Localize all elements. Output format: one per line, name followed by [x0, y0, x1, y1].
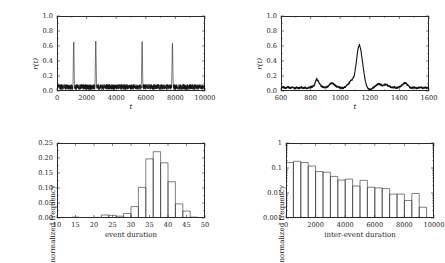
ytick-label: 0.0	[27, 88, 53, 95]
yaxis-title-bottom-left: normalized frequency	[49, 185, 57, 263]
xtick-label: 10000	[424, 222, 445, 229]
xaxis-title-top-right: t	[354, 103, 357, 111]
xtick-label: 600	[275, 95, 288, 102]
xtick-label: 2000	[307, 222, 324, 229]
xtick-label: 0	[55, 95, 59, 102]
xtick-label: 6000	[366, 222, 383, 229]
xtick-label: 30	[127, 222, 135, 229]
xtick-label: 8000	[167, 95, 184, 102]
ytick-label: 1.0	[251, 13, 277, 20]
xtick-label: 40	[164, 222, 172, 229]
xtick-label: 1400	[391, 95, 408, 102]
xtick-label: 6000	[137, 95, 154, 102]
panel-bottom-left: 101520253035404550 0.000.050.100.150.200…	[0, 127, 222, 254]
xaxis-title-bottom-right: inter-event duration	[324, 231, 395, 239]
panel-top-right: 6008001000120014001600 0.00.20.40.60.81.…	[222, 0, 445, 127]
xaxis-title-top-left: t	[130, 103, 133, 111]
xtick-label: 1600	[421, 95, 438, 102]
xtick-label: 35	[145, 222, 153, 229]
ytick-label: 0.15	[27, 170, 53, 177]
axis-ticks-top-left	[57, 16, 205, 91]
ytick-label: 0.25	[27, 140, 53, 147]
xtick-label: 45	[182, 222, 190, 229]
xtick-label: 10000	[195, 95, 216, 102]
yaxis-title-top-right: r(t)	[256, 58, 264, 70]
ytick-label: 0.2	[251, 73, 277, 80]
ytick-label: 0.8	[27, 28, 53, 35]
panel-bottom-right: 0200040006000800010000 0.0010.010.11 int…	[222, 127, 445, 254]
ytick-label: 1	[256, 140, 282, 147]
ytick-label: 0.1	[256, 165, 282, 172]
xtick-label: 15	[71, 222, 79, 229]
histogram-outline-bottom-left	[72, 152, 198, 218]
yaxis-title-top-left: r(t)	[32, 58, 40, 70]
xtick-label: 2000	[78, 95, 95, 102]
xtick-label: 4000	[337, 222, 354, 229]
xtick-label: 50	[201, 222, 209, 229]
ytick-label: 0.6	[251, 43, 277, 50]
ytick-label: 0.2	[27, 73, 53, 80]
yaxis-title-bottom-right: normalized frequency	[278, 185, 286, 263]
xtick-label: 25	[108, 222, 116, 229]
ytick-label: 0.0	[251, 88, 277, 95]
panel-top-left: 0200040006000800010000 0.00.20.40.60.81.…	[0, 0, 222, 127]
xtick-label: 1200	[361, 95, 378, 102]
xtick-label: 800	[304, 95, 317, 102]
ytick-label: 1.0	[27, 13, 53, 20]
histogram-outline-bottom-right	[286, 161, 427, 218]
ytick-label: 0.20	[27, 155, 53, 162]
xtick-label: 20	[90, 222, 98, 229]
xaxis-title-bottom-left: event duration	[105, 231, 157, 239]
ytick-label: 0.8	[251, 28, 277, 35]
series-line-top-right	[281, 44, 429, 90]
ytick-label: 0.6	[27, 43, 53, 50]
series-line-top-left	[57, 41, 205, 90]
xtick-label: 8000	[396, 222, 413, 229]
axis-ticks-top-right	[281, 16, 429, 91]
xtick-label: 4000	[108, 95, 125, 102]
xtick-label: 1000	[332, 95, 349, 102]
